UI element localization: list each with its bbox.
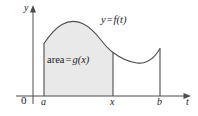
area-annotation-label: area=g(x) [47, 55, 89, 66]
origin-label: 0 [21, 95, 27, 106]
curve-label-function: f(t) [114, 14, 127, 25]
area-label-function: g(x) [72, 54, 89, 65]
area-function-figure: y t 0 a x b y=f(t) area=g(x) [0, 0, 198, 116]
x-axis-label: t [186, 97, 189, 107]
y-axis-arrowhead [30, 5, 36, 13]
tick-label-b: b [157, 97, 162, 107]
curve-label-equals: = [106, 14, 114, 25]
figure-canvas [0, 0, 198, 116]
tick-label-x: x [110, 97, 114, 107]
curve-equation-label: y=f(t) [101, 15, 126, 26]
area-label-text: area [47, 54, 64, 65]
y-axis-label: y [24, 3, 28, 13]
curve-label-y: y [101, 14, 106, 25]
tick-label-a: a [41, 97, 46, 107]
